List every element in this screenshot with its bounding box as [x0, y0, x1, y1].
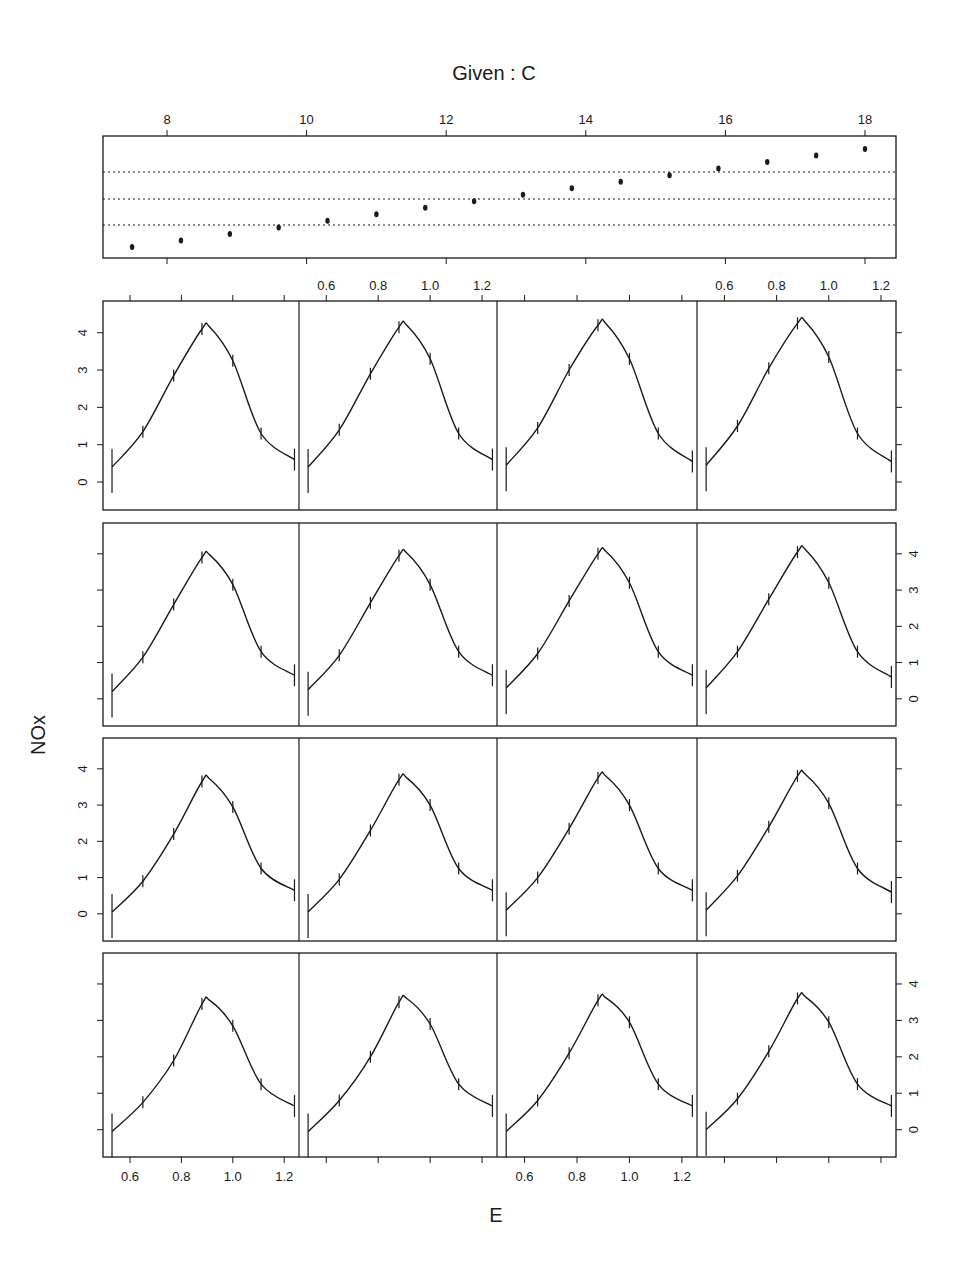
- y-left-tick-label: 0: [75, 910, 90, 917]
- given-tick-label: 10: [299, 112, 313, 127]
- loess-curve: [706, 993, 891, 1130]
- panel-row-frame: [103, 738, 896, 941]
- given-tick-label: 12: [439, 112, 453, 127]
- y-left-tick-label: 2: [75, 838, 90, 845]
- given-panel: 81012141618: [103, 112, 896, 264]
- y-left-tick-label: 4: [75, 329, 90, 336]
- coplot-chart: Given : C 81012141618 0.60.81.01.20.60.8…: [0, 0, 969, 1283]
- x-bottom-tick-label: 1.0: [224, 1169, 242, 1184]
- loess-curve: [506, 548, 692, 688]
- loess-curve: [112, 775, 295, 912]
- loess-curve: [506, 772, 692, 910]
- y-left-tick-label: 3: [75, 801, 90, 808]
- y-axis-label: NOx: [27, 715, 49, 755]
- given-panel-frame: [103, 136, 896, 258]
- given-title: Given : C: [452, 62, 535, 84]
- given-tick-label: 18: [858, 112, 872, 127]
- given-tick-label: 8: [163, 112, 170, 127]
- loess-curve: [308, 995, 492, 1131]
- x-bottom-tick-label: 1.2: [275, 1169, 293, 1184]
- given-point: [716, 166, 720, 172]
- loess-curve: [706, 770, 891, 910]
- loess-curve: [308, 774, 492, 912]
- y-left-tick-label: 0: [75, 478, 90, 485]
- x-top-tick-label: 0.8: [768, 278, 786, 293]
- x-top-tick-label: 0.6: [317, 278, 335, 293]
- y-right-tick-label: 3: [906, 586, 921, 593]
- given-point: [863, 146, 867, 152]
- x-bottom-tick-label: 0.6: [121, 1169, 139, 1184]
- y-right-tick-label: 4: [906, 980, 921, 987]
- x-top-tick-label: 1.2: [872, 278, 890, 293]
- x-bottom-tick-label: 0.8: [568, 1169, 586, 1184]
- given-point: [130, 244, 134, 250]
- given-point: [179, 237, 183, 243]
- panel-row-frame: [103, 953, 896, 1157]
- given-point: [765, 159, 769, 165]
- loess-curve: [706, 317, 891, 465]
- loess-curve: [506, 994, 692, 1131]
- y-left-tick-label: 1: [75, 441, 90, 448]
- y-right-tick-label: 2: [906, 623, 921, 630]
- y-left-tick-label: 1: [75, 874, 90, 881]
- x-top-tick-label: 1.2: [473, 278, 491, 293]
- given-tick-label: 16: [718, 112, 732, 127]
- given-point: [814, 153, 818, 159]
- x-bottom-tick-label: 0.6: [516, 1169, 534, 1184]
- loess-curve: [112, 997, 295, 1131]
- y-right-tick-label: 2: [906, 1053, 921, 1060]
- given-point: [325, 218, 329, 224]
- given-point: [619, 179, 623, 185]
- y-right-tick-label: 1: [906, 1090, 921, 1097]
- x-bottom-tick-label: 1.0: [620, 1169, 638, 1184]
- loess-curve: [706, 546, 891, 688]
- loess-curve: [308, 321, 492, 467]
- x-top-tick-label: 1.0: [421, 278, 439, 293]
- given-point: [521, 192, 525, 198]
- loess-curve: [308, 549, 492, 689]
- x-top-tick-label: 0.8: [369, 278, 387, 293]
- y-left-tick-label: 2: [75, 404, 90, 411]
- loess-curve: [112, 551, 295, 691]
- panel-row-frame: [103, 301, 896, 510]
- x-bottom-tick-label: 1.2: [673, 1169, 691, 1184]
- x-top-tick-label: 1.0: [820, 278, 838, 293]
- x-top-tick-label: 0.6: [715, 278, 733, 293]
- given-point: [228, 231, 232, 237]
- given-tick-label: 14: [579, 112, 593, 127]
- y-left-tick-label: 4: [75, 765, 90, 772]
- axes: 0.60.81.01.20.60.81.01.20.60.81.01.20.60…: [75, 278, 921, 1184]
- x-bottom-tick-label: 0.8: [172, 1169, 190, 1184]
- loess-curve: [112, 323, 295, 467]
- y-right-tick-label: 3: [906, 1017, 921, 1024]
- y-right-tick-label: 0: [906, 695, 921, 702]
- given-point: [667, 172, 671, 178]
- y-left-tick-label: 3: [75, 366, 90, 373]
- y-right-tick-label: 4: [906, 550, 921, 557]
- given-point: [472, 198, 476, 204]
- given-point: [570, 185, 574, 191]
- conditioning-panels: [103, 301, 896, 1158]
- x-axis-label: E: [489, 1204, 502, 1226]
- y-right-tick-label: 0: [906, 1126, 921, 1133]
- given-point: [276, 224, 280, 230]
- given-point: [374, 211, 378, 217]
- panel-row-frame: [103, 523, 896, 726]
- given-point: [423, 205, 427, 211]
- y-right-tick-label: 1: [906, 659, 921, 666]
- loess-curve: [506, 319, 692, 465]
